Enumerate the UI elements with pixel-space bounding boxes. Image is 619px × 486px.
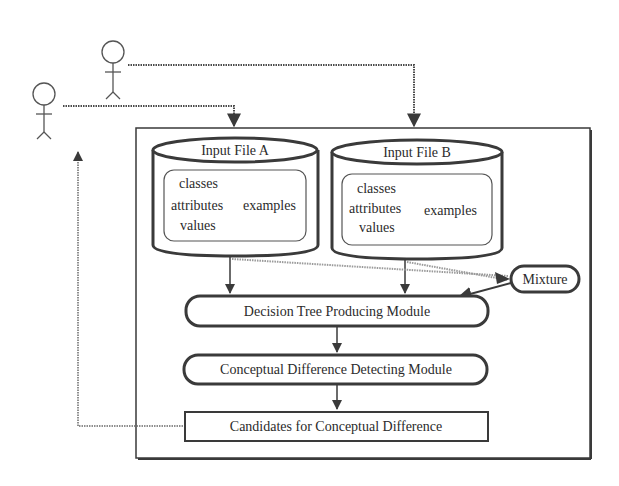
input-file-b-values: values: [359, 220, 395, 235]
input-file-b-classes: classes: [357, 181, 396, 196]
input-file-a-attributes: attributes: [171, 198, 223, 213]
candidates-box: Candidates for Conceptual Difference: [185, 412, 488, 441]
actor-user-2-icon: [33, 83, 55, 139]
input-file-b-cylinder: Input File B classes attributes values e…: [332, 140, 502, 259]
conceptual-difference-module: Conceptual Difference Detecting Module: [184, 355, 487, 384]
conceptual-difference-module-label: Conceptual Difference Detecting Module: [220, 362, 452, 377]
mixture-node: Mixture: [511, 266, 579, 292]
mixture-input-arrowhead: [495, 272, 510, 284]
input-file-a-classes: classes: [179, 176, 218, 191]
input-file-a-examples: examples: [243, 198, 296, 213]
input-file-a-title: Input File A: [201, 143, 270, 158]
input-file-a-cylinder: Input File A classes attributes values e…: [153, 138, 318, 256]
actor-2-to-file-a-connector: [63, 106, 234, 126]
decision-tree-module-label: Decision Tree Producing Module: [244, 304, 430, 319]
input-file-b-attributes: attributes: [349, 201, 401, 216]
decision-tree-module: Decision Tree Producing Module: [186, 296, 488, 326]
actor-1-to-file-b-connector: [128, 65, 414, 126]
mixture-label: Mixture: [522, 272, 567, 287]
input-file-b-title: Input File B: [383, 145, 451, 160]
candidates-box-label: Candidates for Conceptual Difference: [230, 419, 442, 434]
input-file-b-examples: examples: [424, 203, 477, 218]
system-diagram: Input File A classes attributes values e…: [0, 0, 619, 486]
input-file-a-values: values: [180, 218, 216, 233]
actor-user-1-icon: [102, 41, 124, 99]
